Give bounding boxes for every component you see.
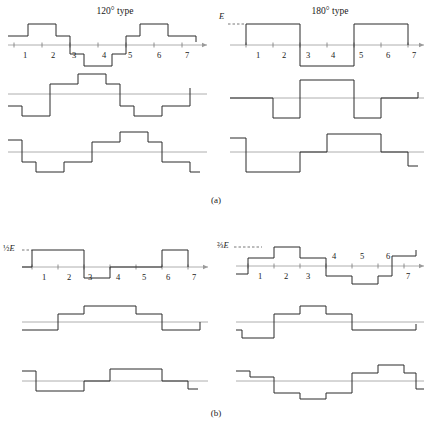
chart-b-left-svg: 1 2 3 4 5 6 7: [22, 240, 212, 296]
svg-text:6: 6: [166, 272, 170, 282]
waveform-trace: [230, 134, 418, 172]
svg-text:4: 4: [331, 50, 336, 60]
svg-text:7: 7: [412, 50, 416, 60]
chart-a-right-phase-b-svg: [228, 70, 428, 126]
chart-a-right-svg: 1 2 3 4 5 6 7: [228, 14, 428, 74]
chart-a-left-phase-b-svg: [4, 70, 212, 126]
panel-label-b: (b): [196, 408, 236, 418]
chart-b-left-phase-b-svg: [22, 300, 212, 352]
chart-a-right-phase-c: [228, 126, 428, 188]
chart-a-left-phase-c-svg: [4, 126, 212, 188]
svg-text:3: 3: [72, 50, 76, 60]
chart-b-left-phase-b: [22, 300, 212, 352]
svg-text:5: 5: [359, 50, 363, 60]
chart-b-right-phase-b: [236, 300, 428, 352]
waveform-trace: [22, 306, 200, 330]
svg-text:1: 1: [256, 50, 260, 60]
waveform-trace: [22, 369, 198, 391]
figure-waveform-diagram: 120° type 1 2 3 4: [0, 0, 431, 441]
x-axis-arrow: [202, 43, 207, 47]
chart-b-right-phase-b-svg: [236, 300, 428, 352]
waveform-trace: [230, 80, 418, 118]
chart-b-right-phase-c-svg: [236, 355, 428, 409]
svg-text:4: 4: [332, 251, 337, 261]
svg-text:2: 2: [67, 272, 71, 282]
axis-number-labels: 1 2 3 4 5 6 7: [42, 272, 196, 282]
axis-number-labels: 1 2 3 4 5 6 7: [23, 50, 189, 60]
x-axis-arrow: [203, 265, 208, 269]
waveform-trace: [22, 250, 188, 278]
x-axis-arrow: [419, 264, 424, 268]
chart-b-right: 1 2 3 4 5 6 7: [236, 238, 428, 296]
waveform-trace: [236, 365, 424, 399]
svg-text:5: 5: [128, 50, 132, 60]
amplitude-label-b-left: ½E: [3, 243, 15, 253]
svg-text:6: 6: [386, 50, 390, 60]
chart-b-left: 1 2 3 4 5 6 7: [22, 240, 212, 296]
waveform-trace: [8, 74, 190, 116]
svg-text:3: 3: [306, 50, 310, 60]
svg-text:5: 5: [142, 272, 146, 282]
svg-text:6: 6: [386, 251, 390, 261]
svg-text:6: 6: [157, 50, 161, 60]
chart-a-right: 1 2 3 4 5 6 7: [228, 14, 428, 74]
svg-text:1: 1: [42, 272, 46, 282]
chart-a-right-phase-b: [228, 70, 428, 126]
svg-text:1: 1: [23, 50, 27, 60]
chart-a-right-phase-c-svg: [228, 126, 428, 188]
svg-text:3: 3: [88, 272, 92, 282]
svg-text:2: 2: [282, 50, 286, 60]
chart-b-left-phase-c: [22, 355, 212, 407]
amplitude-label-a-right: E: [219, 11, 224, 21]
svg-text:2: 2: [284, 271, 288, 281]
svg-text:3: 3: [306, 271, 310, 281]
svg-text:7: 7: [192, 272, 196, 282]
x-axis-arrow: [419, 43, 424, 47]
amplitude-label-b-right: ⅔E: [217, 240, 229, 250]
panel-label-a: (a): [196, 195, 236, 205]
chart-a-left: 1 2 3 4 5 6 7: [4, 14, 212, 74]
axis-number-labels: 1 2 3 4 5 6 7: [256, 50, 416, 60]
chart-b-left-phase-c-svg: [22, 355, 212, 407]
svg-text:5: 5: [360, 251, 364, 261]
svg-text:1: 1: [258, 271, 262, 281]
svg-text:2: 2: [51, 50, 55, 60]
chart-a-left-svg: 1 2 3 4 5 6 7: [4, 14, 212, 74]
svg-text:4: 4: [102, 50, 107, 60]
svg-text:7: 7: [185, 50, 189, 60]
svg-text:4: 4: [116, 272, 121, 282]
chart-a-left-phase-b: [4, 70, 212, 126]
chart-a-left-phase-c: [4, 126, 212, 188]
chart-b-right-svg: 1 2 3 4 5 6 7: [236, 238, 428, 296]
svg-text:7: 7: [406, 271, 410, 281]
chart-b-right-phase-c: [236, 355, 428, 409]
